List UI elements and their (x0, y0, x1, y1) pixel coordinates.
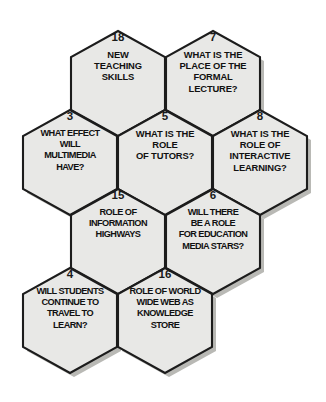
diagram-canvas: 18 NEW TEACHING SKILLS 7 WHAT IS THE PLA… (0, 0, 326, 402)
hexagon-shape (117, 266, 219, 380)
hexagon-grid: 18 NEW TEACHING SKILLS 7 WHAT IS THE PLA… (0, 0, 326, 402)
hexagon-shape (22, 266, 124, 380)
